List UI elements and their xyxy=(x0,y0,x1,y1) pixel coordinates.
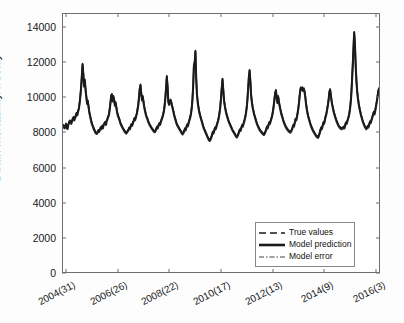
y-axis-tick-label: 8000 xyxy=(0,126,56,138)
legend-item[interactable]: True values xyxy=(259,227,350,238)
chart-figure: Death Mortability/weekly 020004000600080… xyxy=(0,0,404,323)
legend-item[interactable]: Model error xyxy=(259,251,350,262)
x-axis-tick-mark xyxy=(272,269,273,273)
x-axis-tick-mark xyxy=(221,269,222,273)
legend-line-sample-solid xyxy=(259,240,285,249)
x-axis-tick-mark xyxy=(376,13,377,17)
y-axis-tick-label: 12000 xyxy=(0,56,56,68)
x-axis-tick-label: 2008(22) xyxy=(139,279,180,307)
chart-legend: True valuesModel predictionModel error xyxy=(255,222,355,267)
y-axis-tick-mark xyxy=(62,62,66,63)
x-axis-tick-label: 2006(26) xyxy=(88,279,129,307)
y-axis-tick-mark xyxy=(62,237,66,238)
x-axis-tick-label: 2004(31) xyxy=(36,279,77,307)
legend-item[interactable]: Model prediction xyxy=(259,239,350,250)
x-axis-tick-mark xyxy=(65,269,66,273)
y-axis-tick-mark xyxy=(376,62,380,63)
x-axis-tick-label: 2014(9) xyxy=(300,279,336,304)
y-axis-tick-label: 4000 xyxy=(0,197,56,209)
y-axis-tick-mark xyxy=(376,167,380,168)
y-axis-tick-mark xyxy=(62,27,66,28)
y-axis-tick-mark xyxy=(376,202,380,203)
y-axis-tick-label: 10000 xyxy=(0,91,56,103)
x-axis-tick-mark xyxy=(324,13,325,17)
y-axis-tick-label: 2000 xyxy=(0,232,56,244)
x-axis-tick-mark xyxy=(169,269,170,273)
x-axis-tick-mark xyxy=(65,13,66,17)
x-axis-tick-label: 2016(3) xyxy=(351,279,387,304)
y-axis-tick-label: 0 xyxy=(0,267,56,279)
y-axis-tick-mark xyxy=(376,132,380,133)
y-axis-tick-mark xyxy=(62,202,66,203)
x-axis-tick-mark xyxy=(117,269,118,273)
y-axis-label: Death Mortability/weekly xyxy=(0,0,2,248)
x-axis-tick-label: 2012(13) xyxy=(243,279,284,307)
y-axis-tick-mark xyxy=(62,132,66,133)
y-axis-tick-mark xyxy=(62,167,66,168)
y-axis-tick-label: 14000 xyxy=(0,21,56,33)
x-axis-tick-mark xyxy=(169,13,170,17)
x-axis-tick-label: 2010(17) xyxy=(191,279,232,307)
series-group xyxy=(63,32,379,141)
legend-line-sample-dashdot xyxy=(259,252,285,261)
x-axis-tick-mark xyxy=(376,269,377,273)
legend-label: True values xyxy=(289,228,333,237)
y-axis-tick-mark xyxy=(376,97,380,98)
y-axis-tick-mark xyxy=(376,237,380,238)
y-axis-tick-mark xyxy=(376,27,380,28)
legend-label: Model error xyxy=(289,252,332,261)
x-axis-tick-mark xyxy=(272,13,273,17)
y-axis-tick-mark xyxy=(62,97,66,98)
x-axis-tick-mark xyxy=(221,13,222,17)
y-axis-tick-label: 6000 xyxy=(0,162,56,174)
legend-label: Model prediction xyxy=(289,240,351,249)
x-axis-tick-mark xyxy=(117,13,118,17)
legend-line-sample-dashed xyxy=(259,228,285,237)
x-axis-tick-mark xyxy=(324,269,325,273)
